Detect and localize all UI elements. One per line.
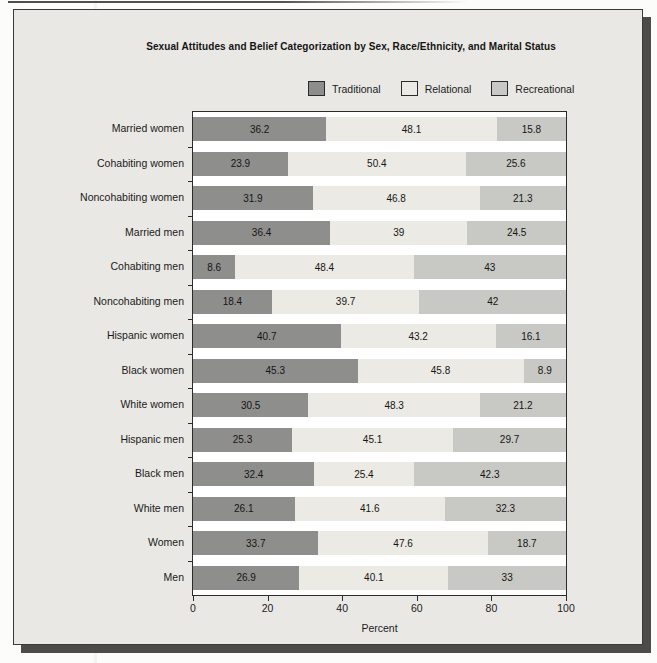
bar-value-label: 46.8 bbox=[386, 193, 405, 204]
bar-segment-traditional: 18.4 bbox=[193, 290, 272, 314]
bar-value-label: 25.4 bbox=[354, 469, 373, 480]
bar-segment-relational: 50.4 bbox=[288, 152, 466, 176]
y-axis-tick bbox=[188, 216, 192, 217]
x-axis-tick bbox=[268, 596, 269, 601]
bar-value-label: 45.3 bbox=[266, 365, 285, 376]
scan-artifact-line bbox=[8, 1, 508, 3]
bar-value-label: 45.8 bbox=[431, 365, 450, 376]
chart-row: 40.743.216.1 bbox=[193, 324, 566, 348]
bar-value-label: 21.2 bbox=[513, 400, 532, 411]
category-label: Cohabiting men bbox=[14, 260, 184, 272]
bar-segment-recreational: 15.8 bbox=[497, 117, 566, 141]
category-label: Women bbox=[14, 536, 184, 548]
y-axis-tick bbox=[188, 250, 192, 251]
bar-segment-traditional: 25.3 bbox=[193, 428, 292, 452]
bar-segment-relational: 43.2 bbox=[341, 324, 496, 348]
category-label: Men bbox=[14, 571, 184, 583]
bar-value-label: 33 bbox=[502, 572, 513, 583]
bar-segment-traditional: 30.5 bbox=[193, 393, 308, 417]
chart-title: Sexual Attitudes and Belief Categorizati… bbox=[74, 41, 628, 52]
chart-row: 45.345.88.9 bbox=[193, 359, 566, 383]
bar-value-label: 30.5 bbox=[241, 400, 260, 411]
bar-value-label: 36.2 bbox=[250, 124, 269, 135]
chart-row: 18.439.742 bbox=[193, 290, 566, 314]
bar-segment-recreational: 16.1 bbox=[496, 324, 566, 348]
y-axis-tick bbox=[188, 388, 192, 389]
x-axis-tick bbox=[193, 596, 194, 601]
plot-area: 36.248.115.823.950.425.631.946.821.336.4… bbox=[192, 111, 567, 596]
bar-segment-relational: 39 bbox=[330, 221, 467, 245]
bar-segment-relational: 48.3 bbox=[308, 393, 479, 417]
bar-segment-traditional: 36.2 bbox=[193, 117, 326, 141]
chart-row: 32.425.442.3 bbox=[193, 462, 566, 486]
bar-value-label: 16.1 bbox=[521, 331, 540, 342]
legend-item: Relational bbox=[401, 81, 472, 96]
x-axis-tick-label: 80 bbox=[486, 602, 498, 614]
bar-value-label: 15.8 bbox=[522, 124, 541, 135]
bar-segment-relational: 48.4 bbox=[235, 255, 413, 279]
y-axis-tick bbox=[188, 526, 192, 527]
bar-value-label: 29.7 bbox=[500, 434, 519, 445]
bar-value-label: 8.6 bbox=[207, 262, 221, 273]
chart-row: 25.345.129.7 bbox=[193, 428, 566, 452]
y-axis-tick bbox=[188, 181, 192, 182]
legend: TraditionalRelationalRecreational bbox=[308, 81, 574, 96]
category-label: Black women bbox=[14, 364, 184, 376]
bar-segment-recreational: 8.9 bbox=[524, 359, 566, 383]
legend-label: Traditional bbox=[332, 83, 381, 95]
y-axis-tick bbox=[188, 147, 192, 148]
legend-label: Relational bbox=[425, 83, 472, 95]
x-axis-tick bbox=[566, 596, 567, 601]
y-axis-tick bbox=[188, 354, 192, 355]
chart-row: 30.548.321.2 bbox=[193, 393, 566, 417]
x-axis-tick-label: 0 bbox=[190, 602, 196, 614]
bar-value-label: 36.4 bbox=[252, 227, 271, 238]
x-axis-tick-label: 100 bbox=[557, 602, 575, 614]
category-label: Black men bbox=[14, 467, 184, 479]
chart-row: 36.248.115.8 bbox=[193, 117, 566, 141]
legend-item: Recreational bbox=[491, 81, 574, 96]
y-axis-tick bbox=[188, 561, 192, 562]
bar-segment-traditional: 33.7 bbox=[193, 531, 318, 555]
legend-item: Traditional bbox=[308, 81, 381, 96]
bar-value-label: 24.5 bbox=[507, 227, 526, 238]
x-axis-tick-label: 20 bbox=[262, 602, 274, 614]
bar-segment-relational: 48.1 bbox=[326, 117, 497, 141]
bar-segment-relational: 41.6 bbox=[295, 497, 445, 521]
bar-value-label: 21.3 bbox=[513, 193, 532, 204]
bar-segment-traditional: 31.9 bbox=[193, 186, 313, 210]
bar-value-label: 18.7 bbox=[517, 538, 536, 549]
legend-swatch-traditional bbox=[308, 81, 325, 96]
bar-value-label: 39.7 bbox=[336, 296, 355, 307]
bar-value-label: 23.9 bbox=[231, 158, 250, 169]
bar-value-label: 26.1 bbox=[234, 503, 253, 514]
bar-value-label: 40.1 bbox=[364, 572, 383, 583]
chart-row: 26.141.632.3 bbox=[193, 497, 566, 521]
category-label: Married women bbox=[14, 122, 184, 134]
bar-value-label: 45.1 bbox=[363, 434, 382, 445]
category-label: White women bbox=[14, 398, 184, 410]
bar-segment-recreational: 24.5 bbox=[467, 221, 566, 245]
bar-segment-relational: 46.8 bbox=[313, 186, 480, 210]
x-axis-tick bbox=[417, 596, 418, 601]
bar-segment-recreational: 21.2 bbox=[480, 393, 566, 417]
y-axis-tick bbox=[188, 457, 192, 458]
bar-segment-relational: 47.6 bbox=[318, 531, 487, 555]
bar-segment-recreational: 25.6 bbox=[466, 152, 566, 176]
x-axis-tick-label: 60 bbox=[411, 602, 423, 614]
x-axis-title: Percent bbox=[192, 622, 567, 634]
category-label: Noncohabiting women bbox=[14, 191, 184, 203]
category-label: White men bbox=[14, 502, 184, 514]
bar-segment-traditional: 40.7 bbox=[193, 324, 341, 348]
chart-row: 31.946.821.3 bbox=[193, 186, 566, 210]
chart-row: 23.950.425.6 bbox=[193, 152, 566, 176]
bar-value-label: 50.4 bbox=[367, 158, 386, 169]
bar-segment-relational: 39.7 bbox=[272, 290, 420, 314]
bar-value-label: 33.7 bbox=[246, 538, 265, 549]
bar-segment-traditional: 32.4 bbox=[193, 462, 314, 486]
bar-segment-recreational: 42.3 bbox=[414, 462, 566, 486]
x-axis-tick bbox=[491, 596, 492, 601]
bar-segment-recreational: 33 bbox=[448, 566, 566, 590]
bar-value-label: 40.7 bbox=[257, 331, 276, 342]
bar-segment-recreational: 21.3 bbox=[480, 186, 566, 210]
